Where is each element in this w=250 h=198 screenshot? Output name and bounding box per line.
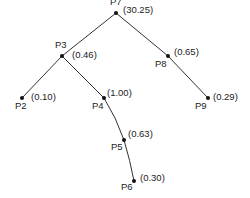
edge-p8-p9	[168, 56, 208, 98]
node-value-p5: (0.63)	[128, 128, 153, 139]
node-label-p9: P9	[195, 100, 207, 111]
tree-diagram: P7 P3 P8 P2 P4 P9 P5 P6 (30.25) (0.46) (…	[0, 0, 250, 198]
edge-p7-p8	[116, 13, 168, 56]
node-label-p6: P6	[121, 181, 133, 192]
node-p7	[114, 11, 118, 15]
node-value-p4: (1.00)	[107, 87, 132, 98]
node-value-p9: (0.29)	[213, 91, 238, 102]
edge-p3-p4	[62, 56, 104, 98]
node-value-p2: (0.10)	[31, 91, 56, 102]
node-value-p7: (30.25)	[123, 4, 153, 15]
node-label-p2: P2	[15, 100, 27, 111]
node-label-p5: P5	[111, 141, 123, 152]
node-p3	[60, 54, 64, 58]
node-label-p4: P4	[92, 100, 104, 111]
node-label-p8: P8	[155, 58, 167, 69]
node-label-p7: P7	[110, 0, 122, 7]
edge-p4-p5	[104, 98, 124, 140]
node-label-p3: P3	[55, 39, 67, 50]
node-value-p8: (0.65)	[174, 46, 199, 57]
node-value-p6: (0.30)	[140, 172, 165, 183]
edge-p5-p6	[124, 140, 134, 181]
node-value-p3: (0.46)	[72, 49, 97, 60]
